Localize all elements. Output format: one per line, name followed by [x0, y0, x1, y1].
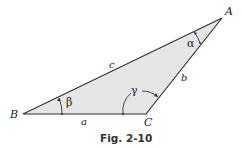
- tick-alpha: [199, 42, 201, 44]
- tick-gamma: [122, 113, 124, 115]
- tick-beta: [61, 113, 63, 115]
- angle-label-gamma: γ: [131, 84, 138, 97]
- triangle-diagram: A B C c b a α β γ Fig. 2-10: [0, 0, 242, 148]
- figure-caption: Fig. 2-10: [100, 132, 152, 144]
- vertex-label-a: A: [224, 5, 233, 18]
- angle-label-alpha: α: [187, 37, 195, 50]
- side-label-b: b: [181, 72, 187, 83]
- side-label-a: a: [81, 116, 87, 127]
- vertex-label-b: B: [9, 108, 18, 121]
- triangle-abc: [23, 18, 222, 114]
- side-label-c: c: [109, 59, 115, 70]
- vertex-label-c: C: [144, 116, 153, 129]
- angle-label-beta: β: [66, 96, 72, 109]
